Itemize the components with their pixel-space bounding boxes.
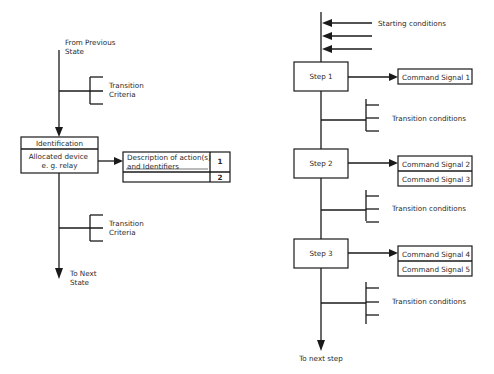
arrow-right-icon [114,157,123,165]
command-signal-3: Command Signal 3 [402,175,470,184]
exit-label: To Next State [69,269,99,287]
left-state-diagram: From Previous State Transition Criteria … [21,38,230,287]
arrow-right-icon [389,73,398,81]
transition-conditions-2 [321,190,379,222]
state-identification: Identification [36,139,83,148]
entry-label: From Previous State [65,38,118,56]
action-row-2: 2 [217,173,222,182]
starting-condition-arrows [322,19,372,53]
command-signal-1: Command Signal 1 [402,73,470,82]
transition-conditions-label-2: Transition conditions [391,204,466,213]
arrow-down-icon [55,127,63,137]
to-next-step-label: To next step [298,354,343,363]
transition-criteria-top: Transition Criteria [108,81,146,99]
transition-bracket-top [59,77,103,104]
arrow-down-icon [55,268,63,279]
arrow-down-icon [317,340,325,351]
transition-conditions-label-3: Transition conditions [391,297,466,306]
arrow-right-icon [389,249,398,257]
transition-criteria-bottom: Transition Criteria [108,219,146,237]
command-signal-4: Command Signal 4 [402,250,471,259]
sequence-diagram: From Previous State Transition Criteria … [0,0,494,374]
step-3-label: Step 3 [309,249,332,258]
step-1-label: Step 1 [309,72,332,81]
starting-conditions-label: Starting conditions [378,19,446,28]
command-signal-2: Command Signal 2 [402,160,470,169]
step-2-label: Step 2 [309,159,332,168]
action-row-1: 1 [217,157,222,166]
transition-conditions-1 [321,99,379,131]
arrow-right-icon [389,159,398,167]
transition-conditions-3 [321,282,379,324]
right-step-diagram: Starting conditions Step 1 Command Signa… [294,12,472,363]
transition-bracket-bottom [59,215,103,241]
command-signal-5: Command Signal 5 [402,265,470,274]
transition-conditions-label-1: Transition conditions [391,114,466,123]
